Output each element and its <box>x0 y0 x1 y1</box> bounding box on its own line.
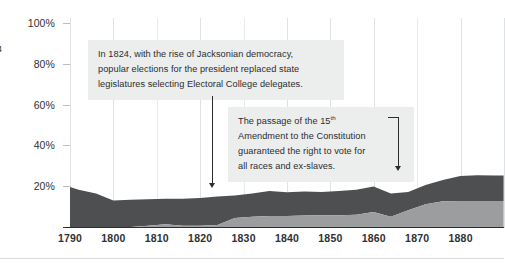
x-tick-label-1860: 1860 <box>362 232 386 244</box>
annotation-line: legislatures selecting Electoral College… <box>98 77 334 92</box>
x-tick-label-1800: 1800 <box>101 232 125 244</box>
annotation-jacksonian-democracy: In 1824, with the rise of Jacksonian dem… <box>88 40 344 100</box>
annotation-line: guaranteed the right to vote for <box>238 144 404 159</box>
x-axis-line <box>63 227 504 228</box>
leader-arrowhead-icon <box>209 183 215 188</box>
annotation-line: In 1824, with the rise of Jacksonian dem… <box>98 47 334 62</box>
annotation-line-text: The passage of the 15 <box>238 116 330 126</box>
x-tick-label-1880: 1880 <box>449 232 473 244</box>
x-tick-label-1790: 1790 <box>58 232 82 244</box>
x-tick-label-1820: 1820 <box>188 232 212 244</box>
annotation-line: all races and ex-slaves. <box>238 159 404 174</box>
annotation-line: popular elections for the president repl… <box>98 62 334 77</box>
annotation-fifteenth-amendment: The passage of the 15th Amendment to the… <box>228 107 414 182</box>
x-tick-label-1830: 1830 <box>232 232 256 244</box>
leader-stem <box>398 117 399 167</box>
bottom-divider <box>0 258 504 259</box>
x-tick-label-1840: 1840 <box>275 232 299 244</box>
leader-arrowhead-icon <box>395 166 401 171</box>
x-tick-label-1870: 1870 <box>405 232 429 244</box>
ordinal-suffix: th <box>330 114 335 121</box>
x-tick-label-1810: 1810 <box>145 232 169 244</box>
annotation-line: The passage of the 15th <box>238 114 404 129</box>
leader-stem <box>212 96 213 184</box>
x-axis: 1790 1800 1810 1820 1830 1840 1850 1860 … <box>0 232 504 252</box>
x-tick-label-1850: 1850 <box>318 232 342 244</box>
annotation-line: Amendment to the Constitution <box>238 129 404 144</box>
